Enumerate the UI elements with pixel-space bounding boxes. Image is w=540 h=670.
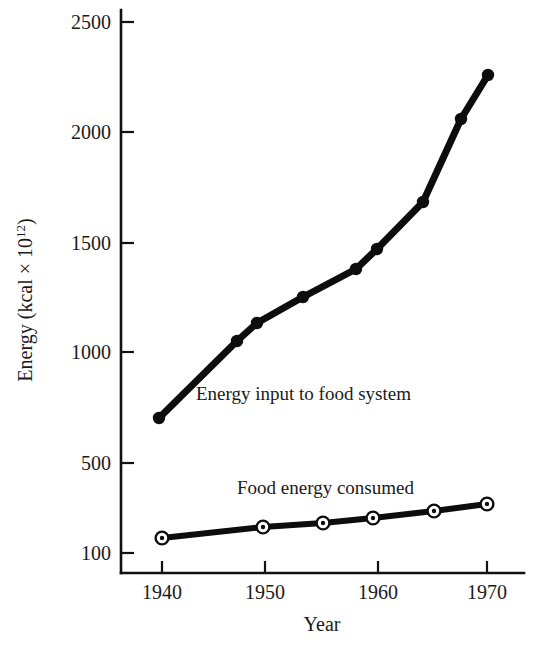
series-line-1 [159, 75, 488, 418]
data-point[interactable] [350, 263, 362, 275]
y-axis-title: Energy (kcal × 1012) [13, 218, 37, 381]
x-tick-label: 1970 [467, 581, 507, 603]
x-tick-label: 1960 [358, 581, 398, 603]
x-axis-group: 1940195019601970 [121, 561, 524, 603]
data-point-center [371, 516, 375, 520]
data-point[interactable] [297, 291, 309, 303]
data-point-center [432, 509, 436, 513]
y-tick-label: 100 [81, 542, 111, 564]
chart-figure: 2500200015001000500100 1940195019601970 … [0, 0, 540, 670]
chart-canvas: 2500200015001000500100 1940195019601970 … [0, 0, 540, 670]
y-axis-group: 2500200015001000500100 [71, 10, 134, 573]
data-point[interactable] [231, 335, 243, 347]
x-axis-ticks [162, 561, 487, 573]
data-point[interactable] [482, 69, 494, 81]
data-point[interactable] [455, 113, 467, 125]
y-axis-tick-labels: 2500200015001000500100 [71, 11, 111, 564]
x-tick-label: 1950 [245, 581, 285, 603]
y-tick-label: 2500 [71, 11, 111, 33]
data-point-center [485, 502, 489, 506]
data-point-center [261, 525, 265, 529]
series-1 [153, 69, 494, 424]
series-2 [156, 498, 494, 545]
data-point[interactable] [251, 317, 263, 329]
y-tick-label: 2000 [71, 121, 111, 143]
y-axis-title-group: Energy (kcal × 1012) [13, 218, 37, 381]
x-axis-title: Year [304, 613, 341, 635]
y-tick-label: 1500 [71, 232, 111, 254]
series-annotation-1: Energy input to food system [196, 383, 411, 404]
x-tick-label: 1940 [142, 581, 182, 603]
data-point[interactable] [417, 196, 429, 208]
data-series-layer [153, 69, 494, 545]
y-tick-label: 1000 [71, 341, 111, 363]
data-point[interactable] [371, 243, 383, 255]
data-point-center [160, 536, 164, 540]
y-axis-ticks [121, 22, 134, 553]
series-annotation-2: Food energy consumed [237, 477, 414, 498]
data-point-center [321, 521, 325, 525]
series-annotations-layer: Energy input to food systemFood energy c… [196, 383, 414, 498]
data-point[interactable] [153, 412, 165, 424]
y-tick-label: 500 [81, 452, 111, 474]
x-axis-tick-labels: 1940195019601970 [142, 581, 507, 603]
